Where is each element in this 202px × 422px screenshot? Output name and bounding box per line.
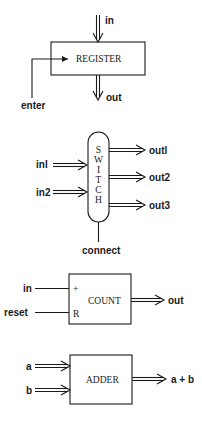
switch-input-label: in2 bbox=[36, 187, 51, 198]
register-output-bus bbox=[93, 75, 103, 100]
count-output-bus bbox=[131, 295, 164, 305]
count-input-label: reset bbox=[4, 307, 29, 318]
adder-input-label: a bbox=[26, 361, 32, 372]
switch-block: S W I T C H inl in2 outl out bbox=[36, 132, 171, 256]
register-block: in REGISTER enter out bbox=[21, 15, 145, 111]
register-output-label: out bbox=[106, 92, 122, 103]
register-input-label: in bbox=[105, 15, 114, 26]
adder-input-bus-b bbox=[35, 385, 70, 395]
adder-title: ADDER bbox=[86, 375, 119, 385]
switch-letter: H bbox=[95, 195, 102, 205]
register-input-bus bbox=[93, 15, 103, 42]
count-port-reset: R bbox=[73, 309, 80, 319]
switch-output-label: outl bbox=[149, 145, 168, 156]
switch-output-bus-3 bbox=[109, 200, 145, 210]
switch-letter: W bbox=[94, 155, 103, 165]
register-enter-line bbox=[32, 59, 68, 98]
switch-input-bus-1 bbox=[53, 160, 87, 170]
switch-input-bus-2 bbox=[53, 187, 87, 197]
switch-output-label: out3 bbox=[149, 200, 171, 211]
adder-output-label: a + b bbox=[171, 374, 194, 385]
count-title: COUNT bbox=[88, 296, 121, 306]
adder-block: ADDER a b a + b bbox=[26, 355, 194, 404]
switch-letter: C bbox=[95, 185, 101, 195]
switch-letter: I bbox=[97, 165, 100, 175]
adder-input-label: b bbox=[26, 385, 32, 396]
switch-letter: T bbox=[96, 175, 102, 185]
switch-letter: S bbox=[96, 145, 101, 155]
count-input-label: in bbox=[23, 283, 32, 294]
count-port-plus: + bbox=[73, 284, 78, 294]
switch-output-label: out2 bbox=[149, 172, 171, 183]
switch-input-label: inl bbox=[36, 159, 48, 170]
adder-output-bus bbox=[132, 374, 166, 384]
register-title: REGISTER bbox=[76, 54, 122, 64]
switch-control-label: connect bbox=[82, 245, 121, 256]
diagram-canvas: in REGISTER enter out S W I T C H inl in… bbox=[0, 0, 202, 422]
count-block: COUNT + R in reset out bbox=[4, 274, 184, 324]
count-output-label: out bbox=[168, 295, 184, 306]
adder-input-bus-a bbox=[35, 361, 70, 371]
switch-output-bus-2 bbox=[109, 172, 145, 182]
register-control-label: enter bbox=[21, 100, 46, 111]
switch-output-bus-1 bbox=[109, 145, 145, 155]
